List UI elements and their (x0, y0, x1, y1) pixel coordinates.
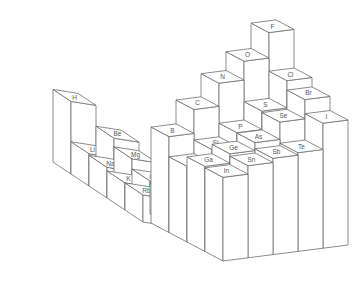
bar-front-face (248, 163, 273, 258)
element-label: F (271, 23, 275, 30)
element-label: Sb (273, 148, 281, 155)
element-label: Be (114, 130, 122, 137)
element-label: Cl (287, 71, 294, 78)
bar-in: In (205, 165, 248, 261)
element-label: O (245, 51, 250, 58)
element-label: Se (280, 112, 288, 119)
element-label: Li (90, 146, 95, 153)
bar-front-face (273, 155, 298, 255)
bar-left-face (53, 89, 71, 174)
element-label: Sn (248, 156, 256, 163)
element-label: P (238, 123, 242, 130)
element-label: C (195, 99, 200, 106)
element-label: I (326, 113, 328, 120)
element-label: B (170, 127, 174, 134)
element-label: K (126, 175, 131, 182)
element-label: N (220, 73, 225, 80)
element-label: In (224, 167, 230, 174)
bar-left-face (187, 157, 205, 252)
element-label: Ge (229, 144, 238, 151)
element-label: S (263, 101, 268, 108)
element-label: Te (298, 143, 305, 150)
p-block-bars: FONCBClSPSiAlBrSeAsGeGaITeSbSnIn (151, 20, 348, 261)
element-label: H (72, 94, 77, 101)
bar-front-face (223, 174, 248, 261)
bar-left-face (205, 168, 223, 261)
element-label: Ga (204, 156, 213, 163)
bar-front-face (298, 150, 323, 252)
bar-left-face (151, 127, 169, 232)
electronegativity-3d-bar-chart: HLiBeNaMgKCaRbSr FONCBClSPSiAlBrSeAsGeGa… (0, 0, 364, 290)
element-label: Mg (131, 151, 140, 159)
element-label: As (255, 133, 263, 140)
bar-front-face (323, 120, 348, 248)
element-label: Br (305, 89, 312, 96)
bar-left-face (169, 157, 187, 242)
